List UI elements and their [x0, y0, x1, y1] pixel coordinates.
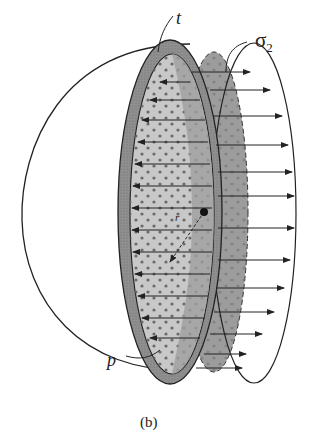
stress-symbol: σ	[255, 28, 266, 52]
stress-label: σ2	[255, 28, 273, 56]
stress-subscript: 2	[266, 40, 273, 55]
pressure-label: p	[107, 350, 116, 371]
sigma-leader	[226, 42, 247, 72]
pressure-vessel-diagram	[0, 0, 311, 447]
thickness-label: t	[176, 8, 181, 29]
radius-label: r	[175, 211, 179, 223]
figure-caption: (b)	[140, 414, 158, 431]
